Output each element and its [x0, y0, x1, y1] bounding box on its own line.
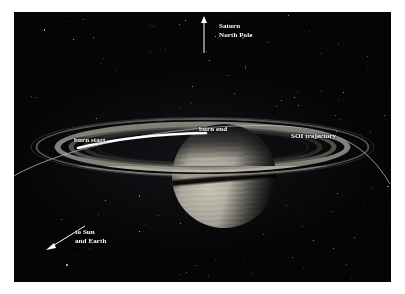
arrow-up-icon: [201, 16, 207, 53]
label-burn-end: burn end: [199, 125, 227, 134]
label-soi-trajectory: SOI trajectory: [291, 132, 336, 141]
image-plate: Saturn North Pole burn start burn end SO…: [14, 12, 391, 282]
label-saturn-north-pole: Saturn North Pole: [219, 22, 252, 39]
label-burn-start: burn start: [74, 136, 106, 145]
trajectory-overlay: [14, 12, 391, 282]
figure-root: Saturn North Pole burn start burn end SO…: [0, 0, 405, 294]
label-to-sun-and-earth: to Sun and Earth: [75, 228, 106, 245]
